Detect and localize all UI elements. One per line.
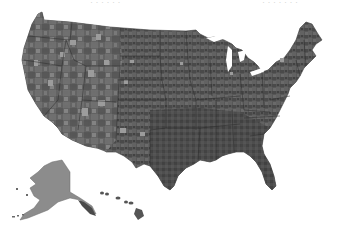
alaska-inset xyxy=(20,160,96,220)
us-county-choropleth-map xyxy=(0,0,352,230)
hawaii-inset xyxy=(100,192,144,221)
western-region-texture xyxy=(22,12,122,152)
